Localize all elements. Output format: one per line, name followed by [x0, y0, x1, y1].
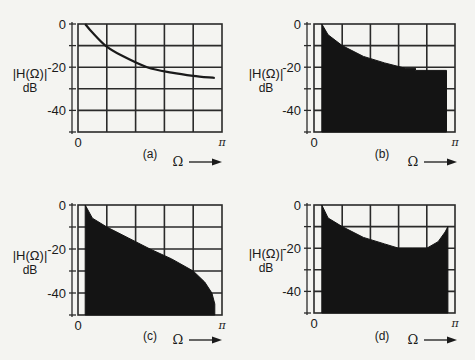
y-tick-label: -20 — [47, 242, 66, 257]
y-tick-label: -40 — [47, 103, 66, 118]
y-tick-label: -40 — [282, 103, 301, 118]
y-axis-unit: dB — [23, 81, 38, 95]
response-curve — [85, 24, 215, 78]
x-axis-label: Ω — [173, 154, 184, 169]
panel-caption: (c) — [143, 329, 157, 343]
y-tick-label: -40 — [47, 286, 66, 301]
y-tick-label: -20 — [282, 241, 301, 256]
x-tick-label-zero: 0 — [310, 135, 317, 150]
plot-c: 0-20-40|H(Ω)|dB0π(c)Ω — [13, 198, 227, 347]
plot-d: 0-20-40|H(Ω)|dB0π(d)Ω — [249, 198, 460, 347]
y-axis-label: |H(Ω)| — [13, 248, 48, 263]
x-axis-label: Ω — [173, 332, 184, 347]
panel-caption: (d) — [375, 329, 390, 343]
arrow-right-icon — [424, 159, 457, 166]
y-axis-unit: dB — [23, 263, 38, 277]
panel-caption: (b) — [375, 147, 390, 161]
y-axis — [69, 22, 76, 134]
y-axis-label: |H(Ω)| — [13, 66, 48, 81]
x-tick-label-pi: π — [450, 317, 459, 330]
y-tick-label: -20 — [47, 60, 66, 75]
y-axis-unit: dB — [259, 81, 274, 95]
x-tick-label-pi: π — [217, 319, 226, 332]
y-tick-label: 0 — [59, 198, 66, 213]
y-tick-label: 0 — [294, 17, 301, 32]
x-axis-label: Ω — [408, 332, 419, 347]
arrow-right-icon — [189, 337, 222, 344]
response-area — [322, 24, 447, 132]
arrow-right-icon — [424, 337, 457, 344]
y-axis — [304, 203, 311, 315]
figure-canvas: 0-20-40|H(Ω)|dB0π(a)Ω0-20-40|H(Ω)|dB0π(b… — [0, 0, 475, 360]
x-tick-label-zero: 0 — [74, 318, 81, 333]
y-tick-label: -20 — [282, 60, 301, 75]
x-tick-label-pi: π — [217, 136, 226, 149]
response-area — [322, 205, 448, 313]
x-axis-label: Ω — [408, 154, 419, 169]
panel-caption: (a) — [143, 147, 158, 161]
y-tick-label: -40 — [282, 284, 301, 299]
x-tick-label-pi: π — [450, 136, 459, 149]
y-axis-unit: dB — [259, 261, 274, 275]
y-axis-label: |H(Ω)| — [249, 246, 284, 261]
y-axis-label: |H(Ω)| — [249, 66, 284, 81]
y-axis — [304, 22, 311, 134]
y-tick-label: 0 — [59, 17, 66, 32]
arrow-right-icon — [189, 159, 222, 166]
y-tick-label: 0 — [294, 198, 301, 213]
response-area — [85, 205, 215, 315]
plot-b: 0-20-40|H(Ω)|dB0π(b)Ω — [249, 17, 460, 169]
plot-a: 0-20-40|H(Ω)|dB0π(a)Ω — [13, 17, 227, 169]
x-tick-label-zero: 0 — [74, 135, 81, 150]
x-tick-label-zero: 0 — [310, 316, 317, 331]
y-axis — [69, 203, 76, 317]
